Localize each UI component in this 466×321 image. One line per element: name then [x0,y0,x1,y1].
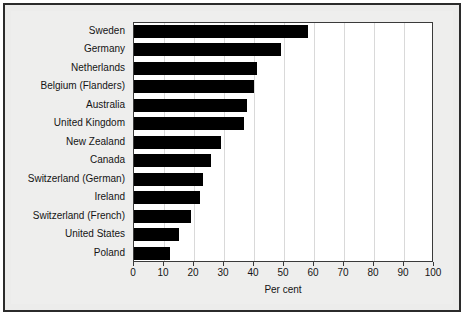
bar [134,43,281,56]
bar [134,62,257,75]
x-tick-label: 70 [328,267,358,278]
x-tick-mark [343,262,344,266]
category-label: Ireland [94,188,125,206]
bar [134,136,221,149]
bar [134,25,308,38]
bar [134,210,191,223]
category-label: United Kingdom [54,114,125,132]
bar [134,80,254,93]
x-tick-label: 20 [178,267,208,278]
x-tick-mark [253,262,254,266]
x-tick-label: 80 [358,267,388,278]
x-tick-mark [403,262,404,266]
bar [134,191,200,204]
x-tick-mark [283,262,284,266]
x-tick-mark [433,262,434,266]
category-label: Canada [90,151,125,169]
category-label: Australia [86,96,125,114]
x-tick-label: 10 [148,267,178,278]
x-axis-title: Per cent [133,284,433,295]
category-label: Germany [84,40,125,58]
x-tick-label: 60 [298,267,328,278]
x-tick-mark [313,262,314,266]
bar-row [134,60,433,78]
bar-row [134,78,433,96]
category-label: Switzerland (German) [28,170,125,188]
category-axis-labels: SwedenGermanyNetherlandsBelgium (Flander… [8,22,129,262]
bar-row [134,226,433,244]
bar [134,228,179,241]
category-label: Switzerland (French) [33,207,125,225]
bar-row [134,152,433,170]
x-tick-label: 90 [388,267,418,278]
bar-row [134,208,433,226]
x-tick-mark [133,262,134,266]
bar [134,173,203,186]
bar [134,247,170,260]
category-label: Sweden [89,22,125,40]
x-tick-label: 40 [238,267,268,278]
chart-figure: SwedenGermanyNetherlandsBelgium (Flander… [0,0,466,321]
bar [134,154,211,167]
x-tick-mark [193,262,194,266]
category-label: United States [65,225,125,243]
bar-row [134,97,433,115]
x-tick-label: 50 [268,267,298,278]
bar-row [134,245,433,262]
category-label: New Zealand [66,133,125,151]
x-tick-mark [163,262,164,266]
bar-row [134,171,433,189]
bar-row [134,41,433,59]
bar [134,117,244,130]
x-tick-label: 100 [418,267,448,278]
plot-area [133,22,433,262]
x-axis: Per cent 0102030405060708090100 [133,262,433,308]
bar-row [134,134,433,152]
category-label: Netherlands [71,59,125,77]
category-label: Belgium (Flanders) [41,77,125,95]
category-label: Poland [94,244,125,262]
x-tick-label: 30 [208,267,238,278]
bar [134,99,247,112]
bar-row [134,23,433,41]
bar-row [134,189,433,207]
bar-row [134,115,433,133]
x-tick-label: 0 [118,267,148,278]
x-tick-mark [223,262,224,266]
bars-layer [134,23,432,261]
x-tick-mark [373,262,374,266]
